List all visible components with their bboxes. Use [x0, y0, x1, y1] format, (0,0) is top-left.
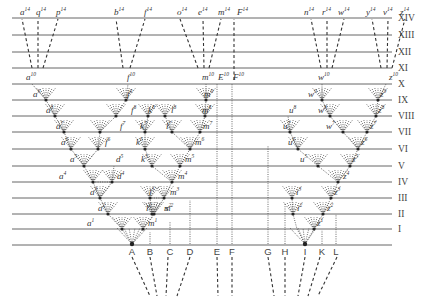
variety-label: w9: [308, 88, 317, 99]
variety-label: d4: [117, 170, 125, 181]
generation-label: XII: [398, 47, 411, 57]
branch-node: [178, 164, 181, 167]
branch-node: [62, 130, 65, 133]
variety-label: i3: [296, 186, 302, 197]
variety-labels: a14q14p14b14f14o14e14m14F14n14r14w14y14v…: [20, 6, 409, 228]
variety-label: f7: [120, 120, 126, 131]
branch-node: [150, 164, 153, 167]
generation-label: VII: [398, 127, 411, 137]
variety-label: w7: [326, 120, 335, 131]
variety-label: a6: [61, 136, 69, 147]
variety-label: a2: [98, 202, 106, 213]
branch-node: [320, 98, 323, 101]
branch-node: [348, 164, 351, 167]
generation-label: III: [398, 193, 408, 203]
branch-node: [316, 164, 319, 167]
branch-node: [82, 164, 85, 167]
generation-label: IV: [398, 177, 408, 187]
variety-label: v14: [383, 6, 393, 17]
species-label: H: [282, 246, 289, 257]
generation-label: VI: [398, 144, 408, 154]
generation-labels: XIVXIIIXIIXIXIXVIIIVIIVIVIVIIIIII: [398, 13, 415, 234]
variety-label: y14: [365, 6, 376, 17]
variety-label: f6: [105, 136, 111, 147]
variety-label: f14: [144, 6, 152, 17]
branch-node: [91, 180, 94, 183]
generation-label: I: [398, 224, 401, 234]
variety-label: m1: [148, 217, 158, 228]
branch-node: [356, 147, 359, 150]
species-label: L: [333, 246, 338, 257]
branch-node: [312, 227, 315, 230]
original-species-labels: ABCDEFGHIKL: [129, 246, 339, 257]
variety-label: F10: [232, 71, 244, 82]
variety-label: z4: [342, 170, 350, 181]
species-label: E: [214, 246, 220, 257]
variety-label: m7: [203, 120, 213, 131]
variety-label: l8: [171, 104, 177, 115]
generation-lines: [12, 18, 392, 245]
branch-node: [170, 180, 173, 183]
variety-label: E10: [217, 71, 229, 82]
variety-label: f9: [127, 88, 133, 99]
variety-label: z7: [369, 120, 377, 131]
variety-label: a3: [90, 186, 98, 197]
variety-label: w10: [318, 71, 330, 82]
variety-label: o14: [177, 6, 187, 17]
variety-label: m14: [218, 6, 230, 17]
variety-label: k8: [148, 104, 155, 115]
branch-node: [336, 180, 339, 183]
variety-label: q14: [36, 6, 46, 17]
branch-node: [341, 130, 344, 133]
generation-label: II: [398, 209, 404, 219]
branch-node: [152, 212, 155, 215]
variety-label: b14: [114, 6, 124, 17]
branch-node: [288, 130, 291, 133]
species-label: A: [129, 246, 136, 257]
branch-node: [141, 227, 144, 230]
branch-node: [110, 180, 113, 183]
variety-label: m6: [195, 136, 205, 147]
variety-label: m9: [204, 88, 214, 99]
variety-label: m5: [185, 153, 195, 164]
branch-node: [296, 147, 299, 150]
species-label: G: [264, 246, 271, 257]
variety-label: n14: [304, 6, 314, 17]
branch-node: [198, 130, 201, 133]
variety-label: a5: [70, 153, 78, 164]
branch-node: [44, 98, 47, 101]
branch-node: [114, 114, 117, 117]
variety-label: z8: [377, 104, 385, 115]
branch-node: [106, 212, 109, 215]
divergence-fans: [36, 88, 387, 229]
branch-node: [328, 114, 331, 117]
variety-label: i2: [297, 202, 303, 213]
variety-label: a1: [87, 217, 95, 228]
variety-label: F14: [236, 6, 248, 17]
variety-label: m8: [202, 104, 212, 115]
variety-label: a8: [46, 104, 54, 115]
variety-label: z5: [351, 153, 359, 164]
variety-label: p14: [55, 6, 66, 17]
variety-label: a9: [33, 88, 41, 99]
variety-label: d5: [116, 153, 124, 164]
variety-label: z1: [316, 217, 324, 228]
variety-label: w14: [338, 6, 350, 17]
variety-label: f8: [131, 104, 137, 115]
variety-label: k5: [141, 153, 148, 164]
branch-node: [291, 212, 294, 215]
generation-label: VIII: [398, 111, 414, 121]
branch-node: [98, 196, 101, 199]
generation-label: X: [398, 79, 405, 89]
species-label: I: [304, 246, 307, 257]
variety-label: r14: [322, 6, 331, 17]
variety-label: m3: [170, 186, 180, 197]
branch-node: [69, 147, 72, 150]
variety-label: z10: [388, 71, 398, 82]
generation-label: V: [398, 161, 405, 171]
species-label: C: [167, 246, 174, 257]
branch-node: [98, 130, 101, 133]
variety-label: m2: [164, 202, 174, 213]
branch-node: [365, 130, 368, 133]
species-label: D: [187, 246, 194, 257]
